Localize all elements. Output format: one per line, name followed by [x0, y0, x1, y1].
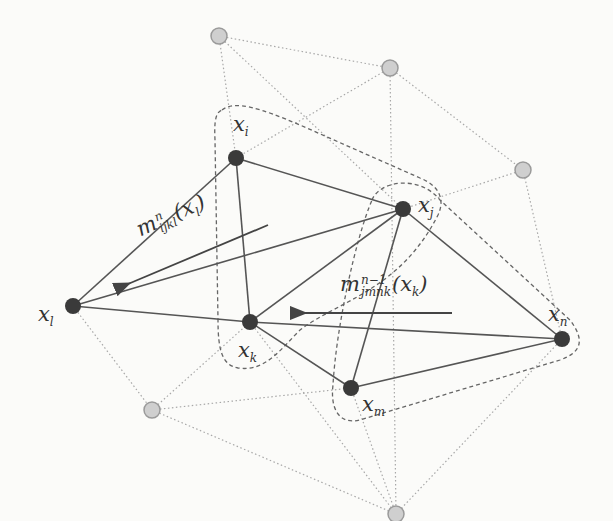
label-xn: xn	[548, 302, 568, 329]
label-xm: xm	[362, 392, 385, 419]
solid-edges	[73, 158, 562, 388]
gray-node-5	[388, 506, 404, 521]
graph-canvas	[0, 0, 613, 521]
label-xk: xk	[238, 338, 257, 365]
label-xj: xj	[418, 193, 434, 220]
node-xn	[554, 331, 570, 347]
clique-outlines	[215, 106, 580, 421]
node-xj	[395, 201, 411, 217]
label-xl: xl	[38, 302, 54, 329]
gray-node-4	[144, 402, 160, 418]
gray-node-2	[382, 60, 398, 76]
node-xl	[65, 298, 81, 314]
unlabeled-nodes	[144, 28, 531, 521]
factor-graph-diagram: xi xj xl xk xm xn mnijkl(xl) mn−1jmnk(xk…	[0, 0, 613, 521]
node-xk	[242, 314, 258, 330]
node-xm	[343, 380, 359, 396]
message-label-jmnk: mn−1jmnk(xk)	[340, 272, 428, 299]
node-xi	[228, 150, 244, 166]
gray-node-3	[515, 162, 531, 178]
dotted-edges	[73, 36, 562, 514]
label-xi: xi	[233, 112, 249, 139]
gray-node-1	[211, 28, 227, 44]
